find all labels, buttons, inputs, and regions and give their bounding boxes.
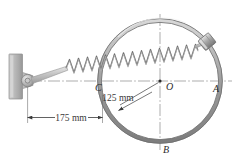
point-c-label: C bbox=[95, 82, 102, 93]
center-dot bbox=[158, 79, 161, 82]
mechanics-diagram-svg: 125 mm 175 mm O A B C bbox=[0, 0, 238, 157]
point-b-label: B bbox=[163, 144, 169, 155]
point-o-label: O bbox=[166, 81, 173, 92]
point-a-label: A bbox=[212, 83, 220, 94]
figure-root: 125 mm 175 mm O A B C bbox=[0, 0, 238, 157]
wall-to-c-dimension-label: 175 mm bbox=[55, 113, 87, 123]
radius-dimension: 125 mm bbox=[102, 83, 158, 111]
pivot-pin-hole bbox=[25, 78, 30, 83]
center-point: O bbox=[158, 79, 173, 92]
spring-coil-highlight bbox=[66, 46, 198, 74]
wall-highlight bbox=[10, 55, 13, 97]
radius-dimension-label: 125 mm bbox=[102, 93, 134, 103]
wall-support bbox=[9, 54, 23, 99]
wall-to-c-dimension: 175 mm bbox=[28, 87, 103, 123]
spring-assembly bbox=[31, 41, 206, 84]
